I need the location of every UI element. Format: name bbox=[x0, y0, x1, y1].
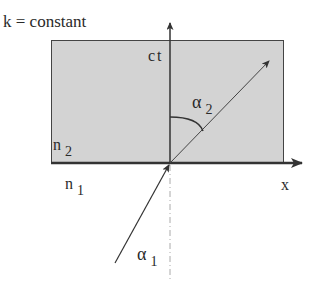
alpha1-index: 1 bbox=[150, 254, 157, 269]
x-axis-label: x bbox=[281, 177, 289, 193]
ct-axis-label: ct bbox=[148, 48, 164, 64]
n2-index: 2 bbox=[65, 144, 72, 159]
alpha1-label: α1 bbox=[137, 245, 157, 263]
medium-n2-region bbox=[52, 41, 284, 164]
alpha2-index: 2 bbox=[205, 102, 212, 117]
n1-symbol: n bbox=[65, 175, 73, 192]
n2-symbol: n bbox=[53, 136, 61, 153]
alpha1-symbol: α bbox=[137, 244, 146, 264]
n1-index: 1 bbox=[77, 183, 84, 198]
alpha2-symbol: α bbox=[192, 92, 201, 112]
n1-label: n1 bbox=[65, 176, 84, 192]
n2-label: n2 bbox=[53, 137, 72, 153]
alpha2-label: α2 bbox=[192, 93, 212, 111]
title-label: k = constant bbox=[3, 13, 86, 30]
